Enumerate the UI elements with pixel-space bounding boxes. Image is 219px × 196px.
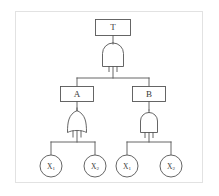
left-or-gate[interactable] bbox=[68, 111, 87, 133]
top-and-gate[interactable] bbox=[103, 43, 124, 67]
fault-tree-figure: T A B bbox=[0, 0, 219, 196]
top-event-label: T bbox=[110, 22, 116, 32]
intermediate-event-label-b: B bbox=[146, 89, 152, 99]
fault-tree-canvas: T A B bbox=[0, 0, 219, 196]
right-and-gate[interactable] bbox=[141, 113, 158, 133]
intermediate-event-label-a: A bbox=[74, 89, 81, 99]
